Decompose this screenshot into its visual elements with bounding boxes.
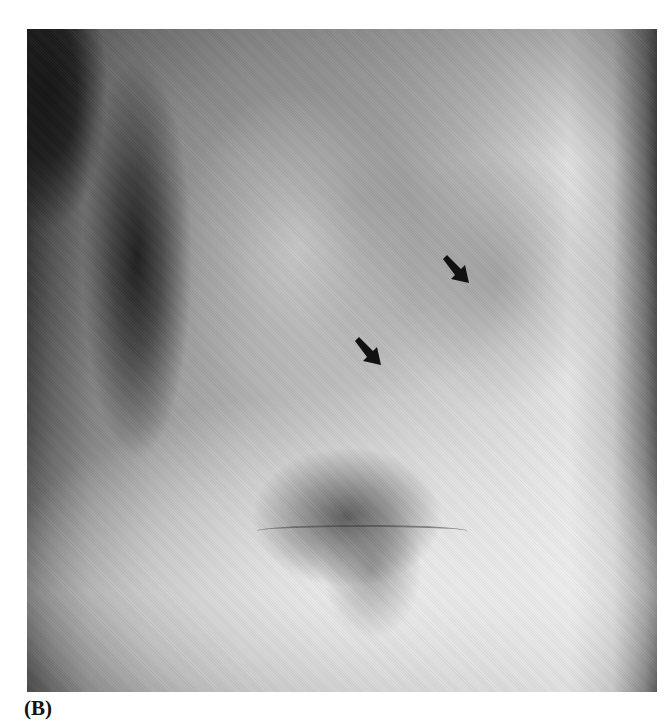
arrow-down-right-icon: [441, 255, 471, 285]
arrow-down-right-icon: [353, 337, 383, 367]
film-grain: [27, 29, 657, 692]
panel-label: (B): [24, 698, 52, 719]
chest-radiograph: [27, 29, 657, 692]
